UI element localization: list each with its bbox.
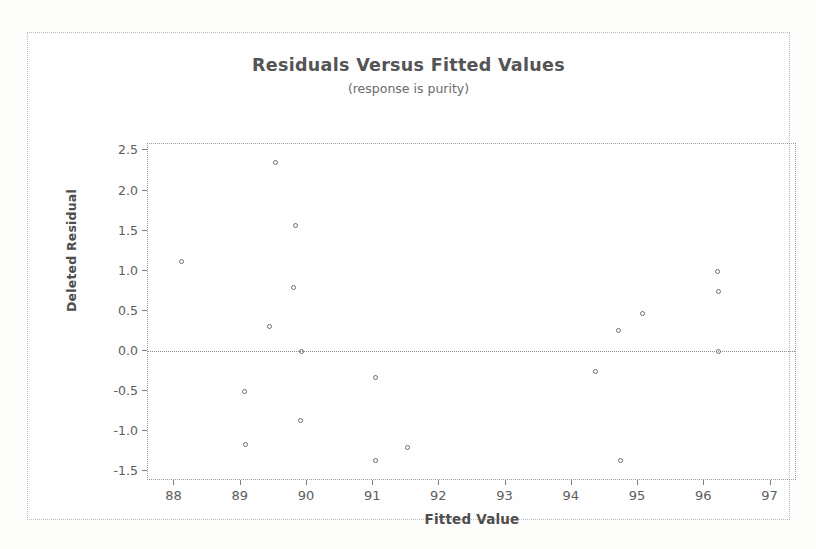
x-axis-tick [306,480,307,485]
data-point [293,223,298,228]
data-point [593,369,598,374]
data-point [291,285,296,290]
x-axis-title: Fitted Value [147,511,797,527]
x-axis-tick-label: 96 [695,488,712,503]
chart-subtitle: (response is purity) [28,81,789,96]
data-point [373,375,378,380]
x-axis-tick-label: 91 [364,488,381,503]
data-point [716,349,721,354]
zero-reference-line [148,351,795,352]
x-axis-tick [703,480,704,485]
data-point [715,269,720,274]
data-point [298,418,303,423]
x-axis-tick [571,480,572,485]
x-axis-tick-label: 95 [629,488,646,503]
data-point [299,349,304,354]
y-axis-tick-label: 1.0 [118,262,138,277]
data-point [618,458,623,463]
y-axis-tick-label: -0.5 [114,383,138,398]
x-axis-tick [240,480,241,485]
x-axis-tick-label: 88 [165,488,182,503]
x-axis-tick [438,480,439,485]
x-axis-tick [770,480,771,485]
x-axis-tick-label: 89 [231,488,248,503]
data-point [716,289,721,294]
y-axis-tick-label: 0.0 [118,343,138,358]
data-point [179,259,184,264]
x-axis-tick [505,480,506,485]
plot-area [148,144,795,479]
x-axis-tick-label: 97 [761,488,778,503]
plot-frame [147,143,796,480]
y-axis: 2.52.01.51.00.50.0-0.5-1.0-1.5 [28,143,147,480]
data-point [405,445,410,450]
data-point [616,328,621,333]
data-point [267,324,272,329]
y-axis-tick-label: 0.5 [118,302,138,317]
y-axis-tick-label: 2.0 [118,182,138,197]
y-axis-tick-label: -1.5 [114,463,138,478]
y-axis-tick-label: 1.5 [118,222,138,237]
data-point [242,389,247,394]
chart-title: Residuals Versus Fitted Values [28,55,789,75]
x-axis-tick [173,480,174,485]
x-axis-tick [637,480,638,485]
data-point [640,311,645,316]
x-axis-tick-label: 92 [430,488,447,503]
y-axis-tick-label: -1.0 [114,423,138,438]
data-point [373,458,378,463]
x-axis-tick-label: 90 [298,488,315,503]
x-axis-tick-label: 93 [496,488,513,503]
data-point [243,442,248,447]
chart-card: Residuals Versus Fitted Values (response… [27,32,790,520]
data-point [273,160,278,165]
x-axis-tick [372,480,373,485]
y-axis-title: Deleted Residual [64,189,79,312]
x-axis-tick-label: 94 [563,488,580,503]
y-axis-tick-label: 2.5 [118,142,138,157]
